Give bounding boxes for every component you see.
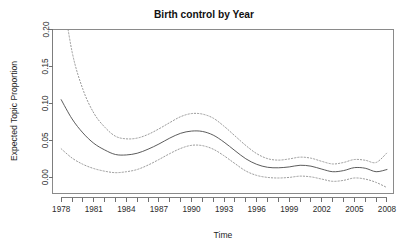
y-axis-ticks: 0.000.050.100.150.20: [42, 21, 53, 185]
chart-title: Birth control by Year: [154, 9, 254, 20]
x-axis-ticks: 1978198119841987199019931996199920022005…: [52, 198, 396, 214]
plot-frame: [53, 30, 394, 194]
confidence-band-line: [61, 0, 387, 164]
chart-figure: Birth control by Year 0.000.050.100.150.…: [0, 0, 409, 245]
mean-trend-line: [61, 100, 387, 172]
x-tick-label: 1990: [182, 205, 201, 214]
x-tick-label: 1993: [215, 205, 234, 214]
y-tick-label: 0.15: [42, 58, 51, 74]
x-tick-label: 1981: [85, 205, 104, 214]
y-tick-label: 0.10: [42, 95, 51, 111]
x-tick-label: 2005: [345, 205, 364, 214]
x-tick-label: 1987: [150, 205, 169, 214]
x-tick-label: 2008: [378, 205, 397, 214]
y-tick-label: 0.00: [42, 169, 51, 185]
x-tick-label: 1984: [117, 205, 136, 214]
confidence-band-line: [61, 145, 387, 188]
x-tick-label: 1999: [280, 205, 299, 214]
chart-series-layer: [61, 0, 387, 188]
y-tick-label: 0.20: [42, 21, 51, 37]
x-tick-label: 1996: [248, 205, 267, 214]
x-axis-title: Time: [214, 230, 233, 240]
x-tick-label: 1978: [52, 205, 71, 214]
y-tick-label: 0.05: [42, 132, 51, 148]
y-axis-title: Expected Topic Proportion: [9, 61, 19, 161]
chart-canvas: Birth control by Year 0.000.050.100.150.…: [0, 0, 409, 245]
x-tick-label: 2002: [313, 205, 332, 214]
